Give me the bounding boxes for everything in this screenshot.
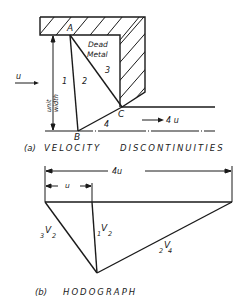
total-velocity-dimension <box>45 166 232 202</box>
inlet-arrow-icon <box>15 81 39 85</box>
vector-3v2-post: 2 <box>52 232 56 240</box>
vector-3v2-v: V <box>45 225 52 235</box>
point-c-label: C <box>118 109 125 119</box>
inlet-velocity-hodo-label: u <box>65 181 70 190</box>
caption-b-text: HODOGRAPH <box>63 287 137 297</box>
dead-metal-label-2: Metal <box>87 50 109 59</box>
vector-1v2-v: V <box>101 223 108 233</box>
extrusion-diagram: unit width u 4 u A C B 1 2 3 4 Dead Meta… <box>0 0 246 305</box>
region-4-label: 4 <box>104 120 109 129</box>
unit-width-dimension <box>51 36 55 130</box>
dead-metal-label: Dead <box>88 40 108 49</box>
caption-a-prefix: (a) <box>24 143 36 153</box>
point-b-label: B <box>74 132 80 142</box>
unit-width-label-2: width <box>52 94 60 112</box>
vector-3v2-pre: 3 <box>40 232 44 240</box>
region-1-label: 1 <box>62 77 67 86</box>
caption-b-prefix: (b) <box>35 287 47 297</box>
vector-2v4-post: 4 <box>168 247 172 255</box>
vector-1v2-post: 2 <box>108 230 112 238</box>
region-2-label: 2 <box>82 77 87 86</box>
point-a-label: A <box>66 23 73 33</box>
outlet-arrow-icon <box>142 118 164 123</box>
region-3-label: 3 <box>105 66 110 75</box>
outlet-velocity-label: 4 u <box>166 116 179 125</box>
hodograph-lines <box>45 202 232 273</box>
total-velocity-label: 4u <box>112 167 122 176</box>
inlet-velocity-label: u <box>16 72 21 81</box>
vector-2v4-pre: 2 <box>159 247 163 255</box>
caption-a-text: VELOCITY DISCONTINUITIES <box>44 143 225 153</box>
